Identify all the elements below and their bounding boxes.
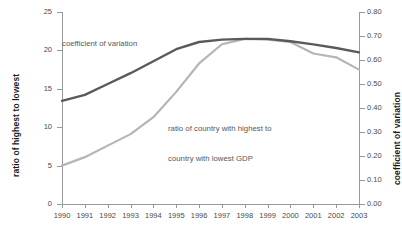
annotation-ratio-gdp-line2: country with lowest GDP <box>168 154 272 164</box>
annotation-ratio-gdp-line1: ratio of country with highest to <box>168 124 272 134</box>
annotation-ratio-gdp: ratio of country with highest to country… <box>168 104 272 184</box>
annotation-coefficient-of-variation: coefficient of variation <box>62 39 137 49</box>
